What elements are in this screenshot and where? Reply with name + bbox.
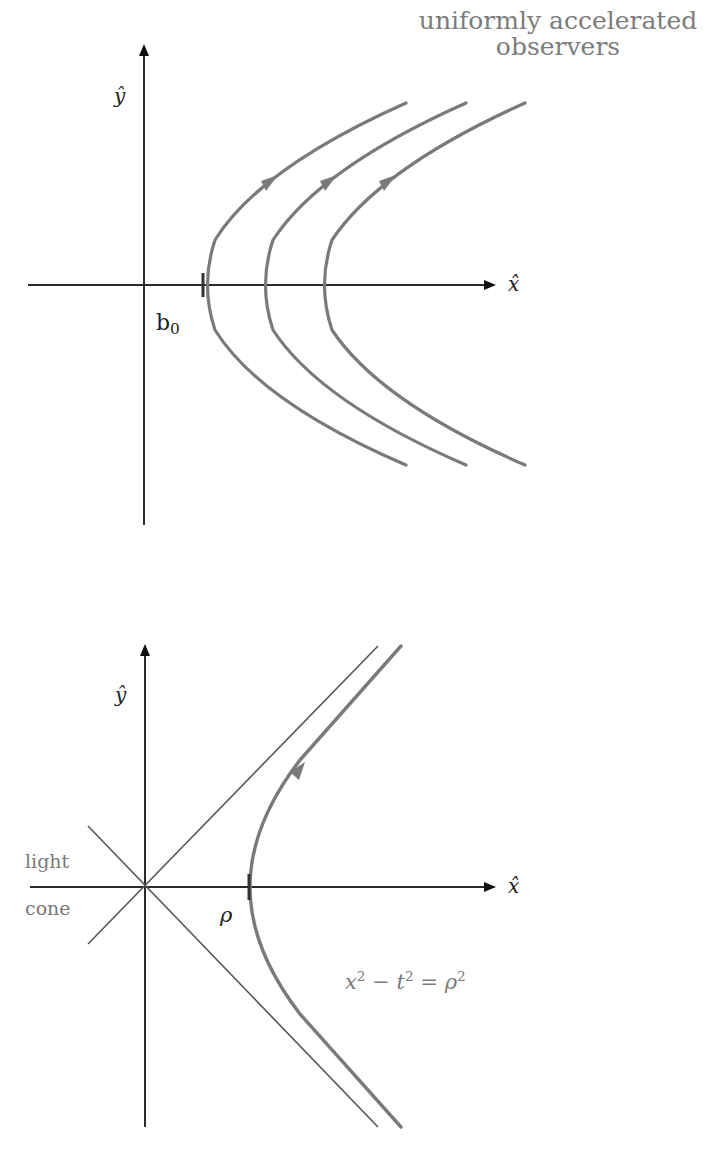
eq-rho-exponent: 2: [457, 968, 466, 984]
eq-x-exponent: 2: [357, 968, 366, 984]
diagram-title: uniformly accelerated observers: [388, 8, 727, 60]
bottom-y-axis-label: ŷ: [115, 683, 126, 707]
vertex-label-subscript: 0: [170, 320, 180, 338]
vertex-label-b0: b0: [156, 310, 180, 338]
bottom-diagram: [30, 646, 494, 1127]
eq-minus: −: [372, 970, 390, 994]
top-x-axis-label: x̂: [508, 272, 519, 296]
direction-arrow-icon: [261, 175, 278, 191]
title-line-2: observers: [388, 34, 727, 60]
top-diagram: [28, 46, 525, 525]
light-cone-label-light: light: [25, 850, 69, 872]
eq-x: x: [345, 970, 357, 994]
light-cone-label-cone: cone: [25, 897, 71, 919]
eq-equals: =: [420, 970, 438, 994]
bottom-x-axis-label: x̂: [508, 874, 519, 898]
hyperbola-equation: x2 − t2 = ρ2: [345, 968, 466, 994]
light-cone-line-future: [88, 646, 378, 944]
eq-rho: ρ: [445, 970, 457, 994]
eq-t-exponent: 2: [405, 968, 414, 984]
top-y-axis-label: ŷ: [114, 84, 125, 108]
vertex-label-base: b: [156, 310, 170, 335]
eq-t: t: [397, 970, 405, 994]
vertex-label-rho: ρ: [220, 903, 232, 927]
title-line-1: uniformly accelerated: [388, 8, 727, 34]
light-cone-line-past: [88, 826, 378, 1127]
